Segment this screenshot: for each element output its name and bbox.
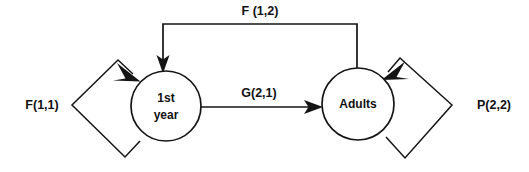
edge-label-fertility-first-year-self-loop: F(1,1) [25,98,58,112]
edge-label-fertility-adults-to-first-year: F (1,2) [242,4,279,18]
edge-growth-first-year-to-adults [201,100,323,114]
edge-fertility-adults-to-first-year [157,24,358,74]
node-first-year-circle[interactable] [131,71,201,141]
node-first-year-label-line2: year [154,108,179,122]
node-adults-label-line1: Adults [339,97,377,111]
node-first-year[interactable]: 1st year [131,71,201,141]
self-loop-first-year [72,60,141,157]
self-loop-first-year-arrowhead [113,63,141,82]
life-cycle-graph: 1st year Adults F (1,2) G(2,1) F(1,1) P(… [0,0,529,172]
edge-fertility-path [163,24,357,68]
edge-label-growth-first-year-to-adults: G(2,1) [241,86,276,100]
node-first-year-label-line1: 1st [157,91,174,105]
edge-label-survival-adults-self-loop: P(2,2) [477,98,511,112]
diagram-canvas: 1st year Adults F (1,2) G(2,1) F(1,1) P(… [0,0,529,172]
node-adults[interactable]: Adults [322,68,394,140]
